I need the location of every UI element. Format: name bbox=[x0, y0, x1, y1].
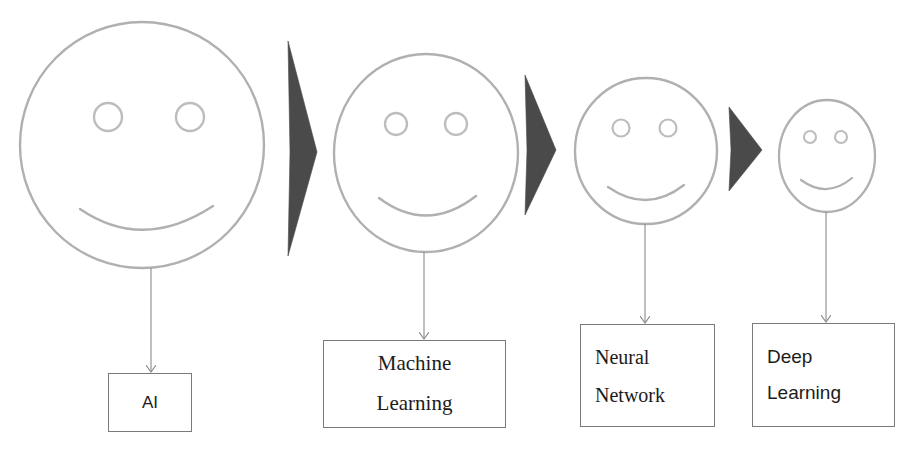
label-box-machine-learning-line-1: Machine bbox=[378, 344, 451, 384]
label-box-ai-line-1: AI bbox=[142, 394, 158, 411]
label-box-deep-learning: Deep Learning bbox=[752, 323, 895, 427]
label-box-neural-network-line-1: Neural bbox=[595, 338, 649, 376]
label-layer: AI Machine Learning Neural Network Deep … bbox=[0, 0, 911, 451]
label-box-deep-learning-line-1: Deep bbox=[767, 339, 812, 375]
label-box-machine-learning-line-2: Learning bbox=[377, 384, 453, 424]
label-box-neural-network: Neural Network bbox=[580, 324, 715, 427]
label-box-ai: AI bbox=[108, 373, 192, 432]
label-box-machine-learning: Machine Learning bbox=[323, 340, 506, 428]
label-box-neural-network-line-2: Network bbox=[595, 376, 665, 414]
label-box-deep-learning-line-2: Learning bbox=[767, 375, 841, 411]
